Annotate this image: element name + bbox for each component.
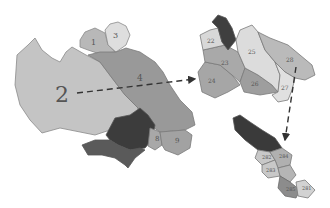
label-8: 8 <box>155 135 159 143</box>
subbasin-dark-level3 <box>233 115 282 152</box>
label-28: 28 <box>286 56 294 63</box>
label-2: 2 <box>55 82 69 107</box>
label-24: 24 <box>208 77 216 84</box>
label-1: 1 <box>91 38 96 47</box>
level3-basin: 282 284 283 285 281 <box>233 115 315 198</box>
label-26: 26 <box>251 80 259 87</box>
label-283: 283 <box>266 167 276 173</box>
label-25: 25 <box>248 48 256 55</box>
watershed-diagram: 2 1 3 4 8 9 22 23 24 25 26 28 27 282 <box>0 0 330 208</box>
main-basin: 2 1 3 4 8 9 <box>15 22 195 168</box>
label-281: 281 <box>302 185 312 191</box>
label-4: 4 <box>137 73 143 83</box>
label-282: 282 <box>262 154 272 160</box>
label-3: 3 <box>113 31 118 40</box>
label-9: 9 <box>175 137 179 145</box>
label-23: 23 <box>221 59 229 66</box>
label-285: 285 <box>286 186 296 192</box>
label-27: 27 <box>281 84 289 91</box>
level2-basin: 22 23 24 25 26 28 27 <box>198 15 315 102</box>
label-22: 22 <box>207 37 215 44</box>
label-284: 284 <box>279 153 289 159</box>
